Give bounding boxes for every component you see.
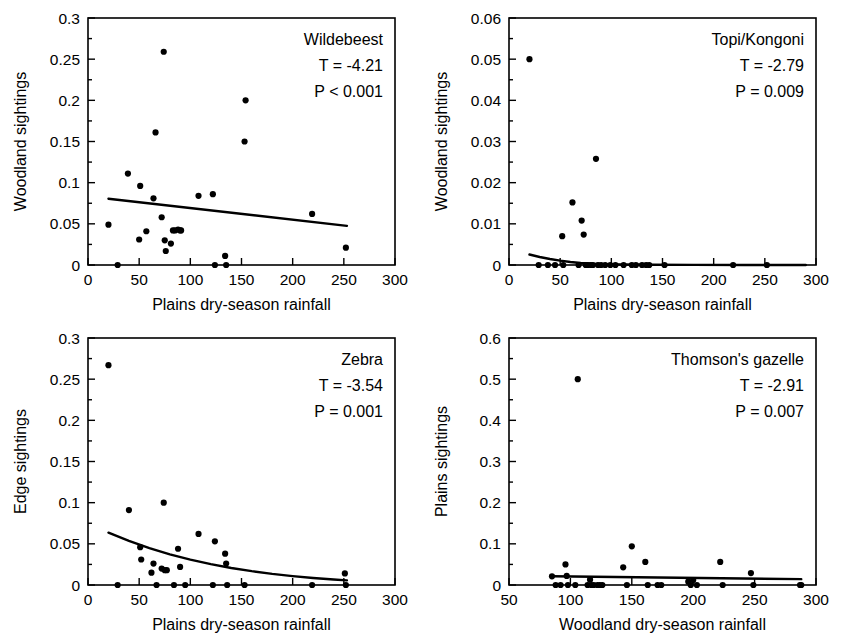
data-point bbox=[222, 551, 228, 557]
data-point bbox=[126, 507, 132, 513]
data-point bbox=[212, 262, 218, 268]
data-point bbox=[159, 214, 165, 220]
data-point bbox=[171, 582, 177, 588]
panel-zebra: 05010015020025030000.050.10.150.20.250.3… bbox=[0, 320, 421, 639]
data-point bbox=[575, 376, 581, 382]
y-tick-label: 0.05 bbox=[50, 215, 80, 232]
y-tick-label: 0.3 bbox=[58, 330, 80, 347]
axes-frame bbox=[509, 18, 816, 265]
data-point bbox=[168, 240, 174, 246]
data-point bbox=[645, 582, 651, 588]
data-point bbox=[694, 582, 700, 588]
x-tick-label: 200 bbox=[701, 271, 727, 288]
x-tick-label: 250 bbox=[331, 271, 357, 288]
y-axis-title: Woodland sightings bbox=[12, 72, 29, 211]
data-point bbox=[730, 262, 736, 268]
x-tick-label: 300 bbox=[803, 271, 829, 288]
y-tick-label: 0.06 bbox=[471, 10, 501, 27]
x-tick-label: 300 bbox=[382, 591, 408, 608]
y-tick-label: 0.1 bbox=[58, 494, 80, 511]
data-point bbox=[177, 564, 183, 570]
data-point bbox=[222, 253, 228, 259]
data-point bbox=[564, 573, 570, 579]
data-point bbox=[629, 543, 635, 549]
data-point bbox=[764, 262, 770, 268]
data-point bbox=[212, 538, 218, 544]
y-tick-label: 0 bbox=[71, 577, 80, 594]
data-point bbox=[105, 222, 111, 228]
data-point bbox=[343, 245, 349, 251]
x-tick-label: 50 bbox=[131, 271, 149, 288]
data-point bbox=[150, 195, 156, 201]
plot-area: 5010015020025030000.10.20.30.40.50.6Wood… bbox=[421, 320, 842, 639]
x-tick-label: 100 bbox=[177, 591, 203, 608]
data-point bbox=[153, 582, 159, 588]
x-tick-label: 150 bbox=[650, 271, 676, 288]
x-tick-label: 250 bbox=[331, 591, 357, 608]
data-point bbox=[612, 262, 618, 268]
data-point bbox=[138, 556, 144, 562]
x-tick-label: 50 bbox=[500, 591, 518, 608]
data-point bbox=[559, 233, 565, 239]
x-tick-label: 300 bbox=[382, 271, 408, 288]
x-tick-label: 100 bbox=[598, 271, 624, 288]
data-point bbox=[210, 191, 216, 197]
x-tick-label: 100 bbox=[177, 271, 203, 288]
x-tick-label: 250 bbox=[752, 271, 778, 288]
data-point bbox=[620, 564, 626, 570]
x-tick-label: 300 bbox=[803, 591, 829, 608]
plot-area: 05010015020025030000.050.10.150.20.250.3… bbox=[0, 0, 421, 319]
y-tick-label: 0.25 bbox=[50, 51, 80, 68]
data-point bbox=[162, 237, 168, 243]
x-tick-label: 100 bbox=[557, 591, 583, 608]
data-point bbox=[549, 573, 555, 579]
panel-topi-kongoni: 05010015020025030000.010.020.030.040.050… bbox=[421, 0, 842, 319]
statistic-p-label: P = 0.007 bbox=[735, 403, 804, 420]
data-point bbox=[621, 262, 627, 268]
y-tick-label: 0.01 bbox=[471, 215, 501, 232]
x-tick-label: 250 bbox=[742, 591, 768, 608]
data-point bbox=[224, 582, 230, 588]
species-label: Thomson's gazelle bbox=[671, 351, 804, 368]
axes-frame bbox=[509, 338, 816, 585]
data-point bbox=[536, 262, 542, 268]
data-point bbox=[575, 262, 581, 268]
data-point bbox=[152, 129, 158, 135]
y-tick-label: 0.4 bbox=[479, 412, 501, 429]
y-tick-label: 0.2 bbox=[58, 92, 80, 109]
y-tick-label: 0 bbox=[492, 257, 501, 274]
x-tick-label: 0 bbox=[84, 271, 93, 288]
statistic-t-label: T = -4.21 bbox=[319, 57, 383, 74]
data-point bbox=[241, 138, 247, 144]
y-tick-label: 0 bbox=[71, 257, 80, 274]
data-point bbox=[309, 582, 315, 588]
data-point bbox=[137, 544, 143, 550]
data-point bbox=[587, 577, 593, 583]
data-point bbox=[562, 561, 568, 567]
data-point bbox=[720, 582, 726, 588]
plot-area: 05010015020025030000.050.10.150.20.250.3… bbox=[0, 320, 421, 639]
x-axis-title: Plains dry-season rainfall bbox=[152, 296, 331, 313]
x-tick-label: 150 bbox=[619, 591, 645, 608]
data-point bbox=[579, 217, 585, 223]
data-point bbox=[242, 97, 248, 103]
x-tick-label: 0 bbox=[84, 591, 93, 608]
data-point bbox=[115, 262, 121, 268]
data-point bbox=[661, 262, 667, 268]
x-axis-title: Plains dry-season rainfall bbox=[152, 616, 331, 633]
data-point bbox=[164, 567, 170, 573]
data-point bbox=[210, 582, 216, 588]
data-point bbox=[658, 582, 664, 588]
data-point bbox=[545, 262, 551, 268]
data-point bbox=[690, 577, 696, 583]
data-point bbox=[241, 582, 247, 588]
x-tick-label: 50 bbox=[552, 271, 570, 288]
y-tick-label: 0.6 bbox=[479, 330, 501, 347]
statistic-p-label: P < 0.001 bbox=[314, 83, 383, 100]
y-tick-label: 0.02 bbox=[471, 174, 501, 191]
y-axis-title: Edge sightings bbox=[12, 409, 29, 514]
x-tick-label: 200 bbox=[280, 591, 306, 608]
data-point bbox=[137, 183, 143, 189]
y-tick-label: 0.3 bbox=[58, 10, 80, 27]
plot-area: 05010015020025030000.010.020.030.040.050… bbox=[421, 0, 842, 319]
